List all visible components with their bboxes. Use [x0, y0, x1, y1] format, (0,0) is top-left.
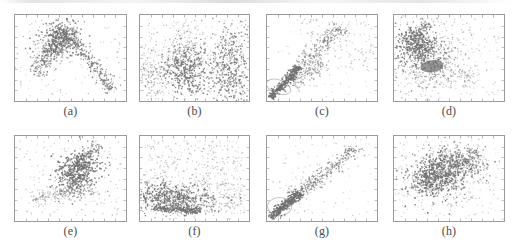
panel-caption-e: (e) — [14, 224, 127, 238]
panel-caption-a: (a) — [14, 104, 127, 118]
scan-artifact-line — [0, 0, 513, 3]
plot-frame-e — [14, 135, 127, 222]
plot-frame-d — [393, 14, 505, 102]
plot-frame-b — [139, 14, 250, 102]
panel-caption-f: (f) — [139, 224, 250, 238]
plot-frame-h — [393, 135, 505, 222]
plot-frame-g — [266, 135, 378, 222]
plot-area-f — [140, 136, 249, 221]
plot-area-e — [15, 136, 126, 221]
panel-caption-b: (b) — [139, 104, 250, 118]
panel-caption-g: (g) — [266, 224, 378, 238]
plot-area-c — [267, 15, 377, 101]
plot-frame-c — [266, 14, 378, 102]
panel-caption-h: (h) — [393, 224, 505, 238]
plot-area-h — [394, 136, 504, 221]
plot-area-a — [15, 15, 126, 101]
plot-frame-f — [139, 135, 250, 222]
plot-area-d — [394, 15, 504, 101]
plot-area-b — [140, 15, 249, 101]
scatter-panel-figure: (a)(b)(c)(d)(e)(f)(g)(h) — [0, 0, 513, 249]
panel-caption-c: (c) — [266, 104, 378, 118]
panel-caption-d: (d) — [393, 104, 505, 118]
plot-area-g — [267, 136, 377, 221]
plot-frame-a — [14, 14, 127, 102]
